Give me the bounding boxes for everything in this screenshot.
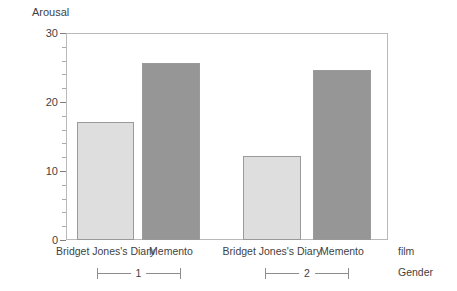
- y-tick-label: 30: [32, 27, 58, 39]
- film-category-label: Memento: [149, 245, 193, 257]
- y-major-tick: [60, 240, 66, 241]
- bar: [243, 156, 301, 240]
- y-tick-label: 20: [32, 96, 58, 108]
- gender-group-bracket: 2: [265, 266, 349, 282]
- bars-layer: [66, 33, 388, 240]
- bracket-cap-right: [348, 268, 349, 279]
- bracket-cap-left: [265, 268, 266, 279]
- film-category-label: Bridget Jones's Diary: [56, 245, 155, 257]
- y-tick-label: 0: [32, 234, 58, 246]
- bar: [313, 70, 371, 240]
- gender-group-label: 1: [131, 266, 147, 281]
- film-category-label: Memento: [320, 245, 364, 257]
- x-axis-name-gender: Gender: [398, 266, 433, 278]
- bar: [77, 122, 134, 240]
- arousal-bar-chart: Arousal 0102030 Bridget Jones's DiaryMem…: [0, 0, 457, 291]
- bracket-cap-left: [97, 268, 98, 279]
- gender-group-bracket: 1: [97, 266, 181, 282]
- x-axis-name-film: film: [398, 245, 414, 257]
- y-tick-label: 10: [32, 165, 58, 177]
- y-axis-title: Arousal: [32, 6, 69, 18]
- film-category-label: Bridget Jones's Diary: [223, 245, 322, 257]
- bracket-cap-right: [180, 268, 181, 279]
- bar: [142, 63, 200, 240]
- gender-group-label: 2: [299, 266, 315, 281]
